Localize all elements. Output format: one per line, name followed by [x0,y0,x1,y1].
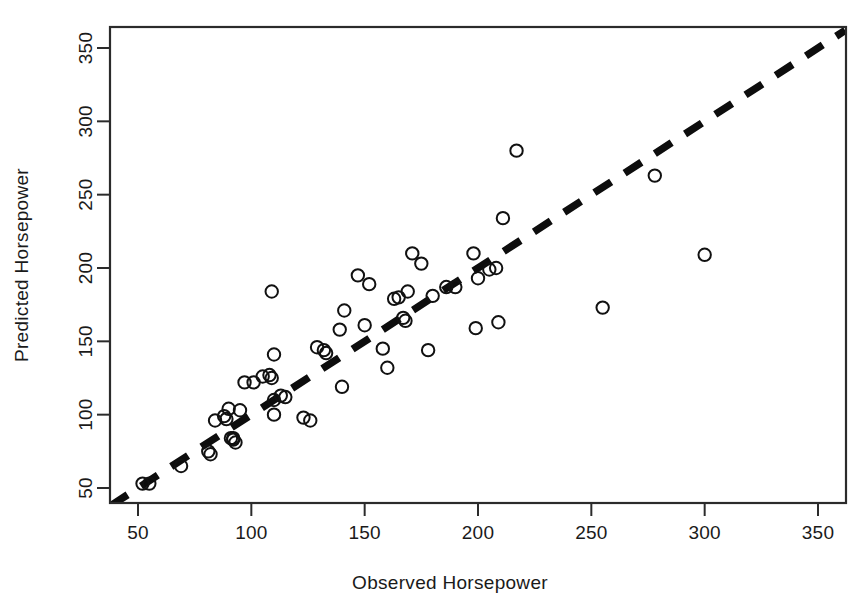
data-point [338,304,350,316]
y-tick-label: 150 [75,325,96,357]
data-point [334,323,346,335]
data-point [363,278,375,290]
data-point [492,316,504,328]
data-point [377,342,389,354]
x-tick-label: 200 [462,522,494,543]
data-point [268,348,280,360]
y-tick-label: 50 [75,477,96,499]
data-point [336,381,348,393]
data-point [406,247,418,259]
data-point [497,212,509,224]
x-tick-label: 50 [127,522,149,543]
y-tick-label: 350 [75,32,96,64]
data-point [470,322,482,334]
y-tick-label: 200 [75,252,96,284]
data-point [510,144,522,156]
data-point [472,272,484,284]
x-tick-label: 100 [235,522,267,543]
data-point [467,247,479,259]
x-tick-label: 150 [349,522,381,543]
data-point [268,408,280,420]
data-point [422,344,434,356]
y-tick-label: 300 [75,105,96,137]
data-point [402,285,414,297]
data-point [266,372,278,384]
data-point [381,362,393,374]
data-point [358,319,370,331]
data-point [596,301,608,313]
data-point [415,257,427,269]
identity-line-segment [111,30,845,505]
data-point [204,448,216,460]
data-point [352,269,364,281]
data-point [698,249,710,261]
data-point [649,169,661,181]
data-point [247,376,259,388]
data-point [399,315,411,327]
y-axis-tick-labels: 50100150200250300350 [75,32,96,499]
x-tick-label: 250 [575,522,607,543]
data-points-group [136,144,711,489]
y-axis-title: Predicted Horsepower [11,168,32,362]
y-tick-label: 250 [75,179,96,211]
x-axis-ticks [138,503,818,516]
data-point [426,290,438,302]
plot-canvas: 50100150200250300350 5010015020025030035… [0,0,855,612]
x-tick-label: 350 [802,522,834,543]
y-tick-label: 100 [75,399,96,431]
scatter-plot-figure: 50100150200250300350 5010015020025030035… [0,0,855,612]
x-tick-label: 300 [689,522,721,543]
x-axis-title: Observed Horsepower [352,572,548,593]
identity-reference-line [111,30,845,505]
data-point [266,285,278,297]
y-axis-ticks [97,48,110,488]
data-point [320,347,332,359]
x-axis-tick-labels: 50100150200250300350 [127,522,834,543]
